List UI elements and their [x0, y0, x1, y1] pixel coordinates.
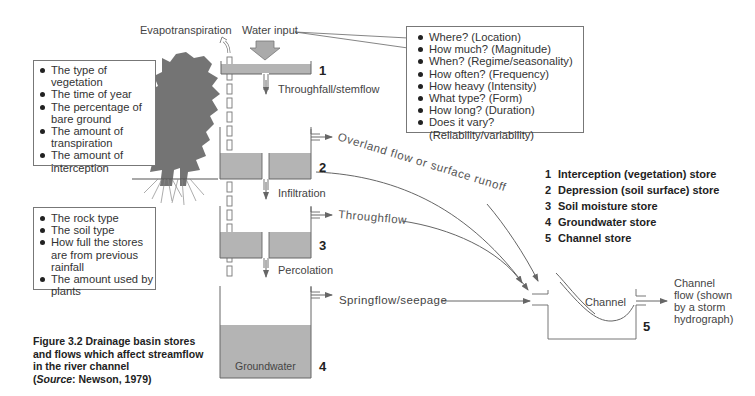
channel-flow-label: Channel flow (shown by a storm hydrograp… [674, 277, 733, 325]
legend-item: 2Depression (soil surface) store [545, 182, 719, 198]
vegetation-factors-box: The type of vegetation The time of year … [33, 60, 156, 166]
store-number-3: 3 [319, 238, 326, 253]
question-item: How heavy (Intensity) [415, 80, 581, 92]
question-item: When? (Regime/seasonality) [415, 55, 581, 67]
factor-item: The time of year [37, 88, 153, 100]
factor-item: The amount used by plants [37, 273, 153, 297]
ground-factors-box: The rock type The soil type How full the… [33, 207, 156, 290]
question-item: Does it vary? (Reliability/variability) [415, 116, 581, 140]
factor-item: The amount of interception [37, 149, 153, 173]
figure-caption: Figure 3.2 Drainage basin stores and flo… [33, 335, 213, 385]
factor-item: The type of vegetation [37, 64, 153, 88]
water-input-label: Water input [242, 24, 298, 36]
question-item: How much? (Magnitude) [415, 43, 581, 55]
store-number-5: 5 [643, 319, 650, 334]
roots-icon [144, 179, 204, 205]
water-input-arrow [250, 41, 280, 60]
evapotranspiration-label: Evapotranspiration [140, 24, 232, 36]
factor-item: How full the stores are from previous ra… [37, 236, 153, 273]
springflow-label: Springflow/seepage [339, 294, 447, 306]
channel-label: Channel [585, 296, 626, 308]
groundwater-label: Groundwater [235, 360, 296, 372]
factor-item: The soil type [37, 224, 153, 236]
factor-item: The rock type [37, 212, 153, 224]
factor-item: The amount of transpiration [37, 125, 153, 149]
legend-item: 4Groundwater store [545, 214, 719, 230]
store-number-4: 4 [319, 359, 326, 374]
throughfall-label: Throughfall/stemflow [278, 83, 380, 95]
store-number-1: 1 [319, 63, 326, 78]
throughflow-label: Throughflow [338, 208, 408, 226]
legend-item: 5Channel store [545, 230, 719, 246]
question-item: Where? (Location) [415, 31, 581, 43]
input-questions-box: Where? (Location) How much? (Magnitude) … [406, 26, 584, 133]
factor-item: The percentage of bare ground [37, 101, 153, 125]
infiltration-label: Infiltration [278, 187, 326, 199]
question-item: What type? (Form) [415, 92, 581, 104]
legend-item: 3Soil moisture store [545, 198, 719, 214]
store-number-2: 2 [319, 160, 326, 175]
store-legend: 1Interception (vegetation) store 2Depres… [545, 166, 719, 246]
legend-item: 1Interception (vegetation) store [545, 166, 719, 182]
question-item: How long? (Duration) [415, 104, 581, 116]
question-item: How often? (Frequency) [415, 68, 581, 80]
percolation-label: Percolation [278, 264, 333, 276]
